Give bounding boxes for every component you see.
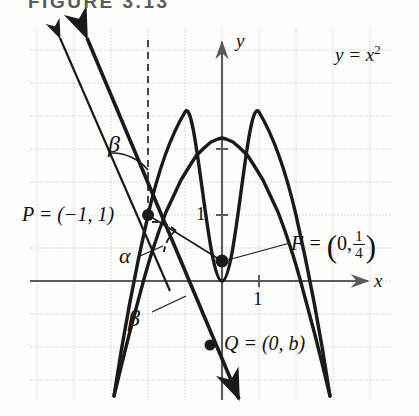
point-q-label: Q = (0, b) (224, 332, 305, 355)
point-p-label: P = (−1, 1) (22, 203, 114, 226)
focus-x-value: 0, (337, 232, 352, 254)
x-axis-label: x (374, 270, 382, 292)
beta-lower-label: β (128, 305, 140, 332)
curve-label-text: y = x (335, 44, 374, 65)
point-f-label: F = (0,14) (291, 228, 376, 265)
focus-prefix: F = (291, 232, 327, 254)
y-axis-label: y (236, 30, 244, 52)
curve-label: y = x2 (335, 42, 381, 66)
point-q-dot (205, 340, 216, 351)
curve-label-exponent: 2 (374, 42, 380, 57)
beta-upper-label: β (108, 131, 120, 158)
x-tick-label-1: 1 (253, 288, 263, 310)
focus-fraction: 14 (353, 228, 365, 261)
point-f-dot (216, 255, 229, 268)
y-tick-label-1: 1 (196, 203, 206, 225)
point-p-dot (142, 209, 154, 221)
focus-numerator: 1 (353, 228, 365, 245)
focus-close-paren: ) (366, 229, 376, 264)
figure-caption: FIGURE 3.13 (28, 0, 170, 13)
focus-denominator: 4 (353, 245, 365, 261)
alpha-label: α (119, 243, 131, 269)
focus-open-paren: ( (327, 229, 337, 264)
